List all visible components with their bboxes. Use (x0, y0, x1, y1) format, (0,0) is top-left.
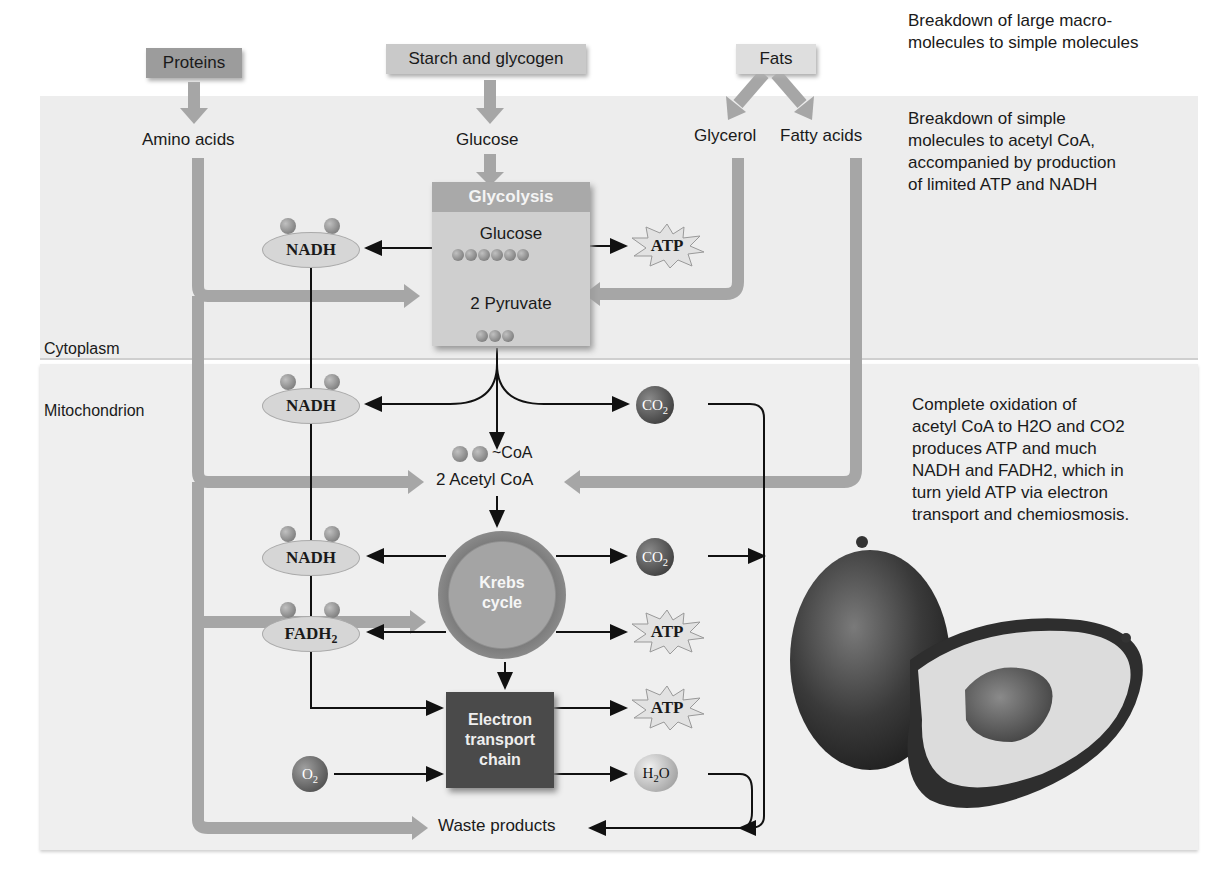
waste-products-label: Waste products (438, 816, 555, 836)
fadh2-subscript: 2 (331, 632, 337, 646)
note-line: molecules to simple molecules (908, 32, 1139, 54)
note-line: produces ATP and much (912, 438, 1129, 460)
stage1-note: Breakdown of large macro- molecules to s… (908, 10, 1139, 54)
glycolysis-glucose: Glucose (432, 224, 590, 244)
atp-label: ATP (651, 236, 684, 255)
co2-subscript: 2 (663, 405, 668, 416)
note-line: acetyl CoA to H2O and CO2 (912, 416, 1129, 438)
atp-burst-icon: ATP (630, 610, 704, 654)
o2-subscript: 2 (313, 774, 318, 785)
nadh-label: NADH (262, 540, 360, 576)
o2-text: O (302, 766, 313, 782)
fadh2-text: FADH (285, 624, 332, 643)
fats-box: Fats (736, 44, 816, 74)
acetyl-coa-label: 2 Acetyl CoA (436, 470, 533, 490)
krebs-line1: Krebs (438, 573, 566, 593)
atp-label: ATP (651, 698, 684, 717)
glycolysis-pyruvate: 2 Pyruvate (432, 294, 590, 314)
amino-acids-label: Amino acids (142, 130, 235, 150)
krebs-cycle-icon: Krebscycle (438, 531, 566, 659)
fadh2-label: FADH2 (262, 616, 360, 652)
krebs-line2: cycle (438, 593, 566, 613)
etc-line1: Electron (465, 710, 535, 730)
glycolysis-box: Glycolysis Glucose 2 Pyruvate (432, 182, 590, 346)
h2o-sphere-icon: H2O (634, 754, 678, 792)
note-line: accompanied by production (908, 152, 1116, 174)
co2-text: CO (642, 549, 663, 565)
nadh-label: NADH (262, 232, 360, 268)
etc-line3: chain (465, 750, 535, 770)
starch-glycogen-box: Starch and glycogen (386, 44, 586, 74)
atp-burst-icon: ATP (630, 686, 704, 730)
atp-burst-icon: ATP (630, 224, 704, 268)
co2-sphere-icon: CO2 (636, 538, 674, 576)
glucose-label: Glucose (456, 130, 518, 150)
note-line: Breakdown of large macro- (908, 10, 1139, 32)
glycolysis-title: Glycolysis (432, 182, 590, 212)
co2-sphere-icon: CO2 (636, 386, 674, 424)
co2-text: CO (642, 397, 663, 413)
note-line: turn yield ATP via electron (912, 482, 1129, 504)
note-line: Breakdown of simple (908, 108, 1116, 130)
starch-glycogen-label: Starch and glycogen (409, 49, 564, 68)
note-line: NADH and FADH2, which in (912, 460, 1129, 482)
electron-transport-chain-box: Electron transport chain (446, 692, 554, 788)
o2-sphere-icon: O2 (292, 756, 328, 792)
glycerol-label: Glycerol (694, 126, 756, 146)
proteins-box: Proteins (146, 48, 242, 78)
avocado-image (780, 520, 1230, 840)
stage3-note: Complete oxidation of acetyl CoA to H2O … (912, 394, 1129, 526)
note-line: molecules to acetyl CoA, (908, 130, 1116, 152)
fats-label: Fats (759, 49, 792, 68)
mitochondrion-label: Mitochondrion (44, 402, 145, 420)
stage2-note: Breakdown of simple molecules to acetyl … (908, 108, 1116, 196)
h2o-o: O (659, 765, 670, 781)
proteins-label: Proteins (163, 53, 225, 72)
note-line: Complete oxidation of (912, 394, 1129, 416)
fatty-acids-label: Fatty acids (780, 126, 862, 146)
etc-line2: transport (465, 730, 535, 750)
co2-subscript: 2 (663, 557, 668, 568)
cytoplasm-label: Cytoplasm (44, 340, 120, 358)
atp-label: ATP (651, 622, 684, 641)
note-line: of limited ATP and NADH (908, 174, 1116, 196)
h2o-h: H (643, 765, 654, 781)
coa-tag: ~CoA (492, 444, 532, 462)
nadh-label: NADH (262, 388, 360, 424)
